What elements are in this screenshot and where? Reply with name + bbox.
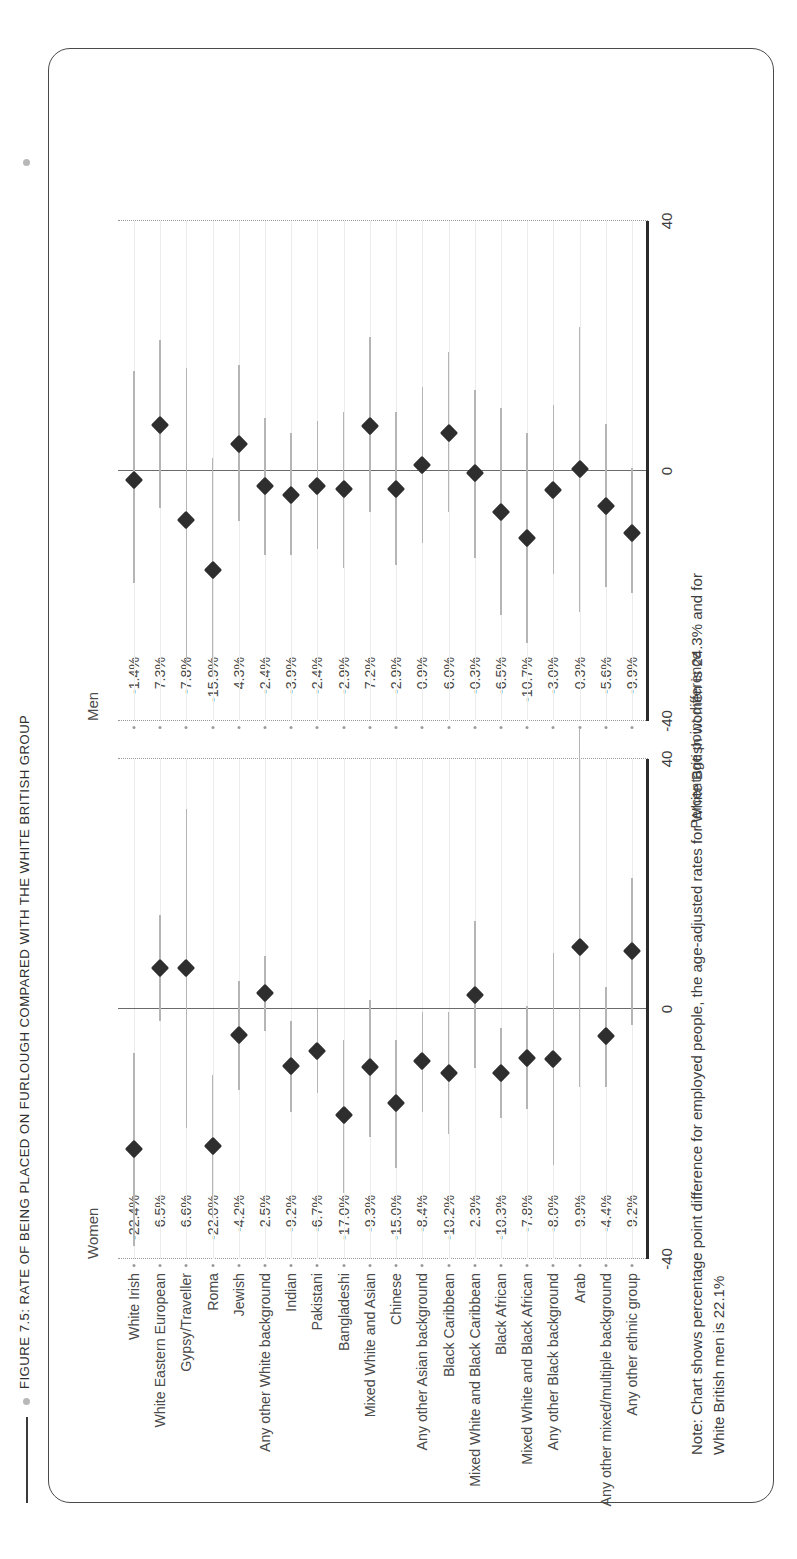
data-point-marker <box>308 477 326 495</box>
data-point-marker <box>230 1026 248 1044</box>
value-bullet-icon <box>368 1264 371 1267</box>
value-bullet-icon <box>133 1264 136 1267</box>
data-point-marker <box>282 486 300 504</box>
value-bullet-icon <box>395 1264 398 1267</box>
figure-note-line-1: Note: Chart shows percentage point diffe… <box>686 125 708 1455</box>
zero-reference-line <box>118 470 648 471</box>
category-label: White Irish <box>126 1273 142 1340</box>
value-bullet-icon <box>159 1264 162 1267</box>
category-label: Roma <box>205 1273 221 1311</box>
data-point-marker <box>597 497 615 515</box>
data-point-marker <box>151 416 169 434</box>
data-point-marker <box>570 460 588 478</box>
x-tick-label: 0 <box>658 467 675 475</box>
category-label: Jewish <box>231 1273 247 1316</box>
category-label: Any other White background <box>257 1273 273 1452</box>
figure-page: FIGURE 7.5: RATE OF BEING PLACED ON FURL… <box>0 0 797 1559</box>
data-point-marker <box>387 1094 405 1112</box>
data-point-marker <box>308 1042 326 1060</box>
category-label: Gypsy/Traveller <box>178 1273 194 1372</box>
panel-bound-min <box>118 1258 648 1259</box>
data-point-marker <box>518 1049 536 1067</box>
category-axis-labels: White IrishWhite Eastern EuropeanGypsy/T… <box>118 1273 648 1559</box>
category-label: Black African <box>493 1273 509 1355</box>
row-gridline <box>501 759 502 1259</box>
value-bullet-icon <box>526 1264 529 1267</box>
data-point-marker <box>544 1050 562 1068</box>
x-tick-label: 40 <box>658 213 675 230</box>
value-bullet-icon <box>316 1264 319 1267</box>
value-bullet-icon <box>578 1264 581 1267</box>
value-bullet-icon <box>631 1264 634 1267</box>
plot-area: Women -40040 Men -40040 Percentage point… <box>118 221 648 1259</box>
panel-men: Men -40040 <box>118 221 648 721</box>
panel-women: Women -40040 <box>118 759 648 1259</box>
data-point-marker <box>439 1064 457 1082</box>
data-point-marker <box>413 1052 431 1070</box>
data-point-marker <box>256 477 274 495</box>
value-bullet-icon <box>211 1264 214 1267</box>
category-label: Any other Asian background <box>414 1273 430 1450</box>
data-point-marker <box>256 984 274 1002</box>
x-tick-label: -40 <box>658 1248 675 1270</box>
row-gridline <box>291 759 292 1259</box>
row-gridline <box>449 759 450 1259</box>
category-label: Any other Black background <box>545 1273 561 1450</box>
value-bullet-icon <box>604 1264 607 1267</box>
data-point-marker <box>361 1058 379 1076</box>
value-bullet-icon <box>185 1264 188 1267</box>
panel-bound-min <box>118 720 648 721</box>
header-dot-right-icon <box>23 159 30 166</box>
data-point-marker <box>334 1106 352 1124</box>
value-bullet-icon <box>264 1264 267 1267</box>
data-point-marker <box>570 938 588 956</box>
category-label: Any other ethnic group <box>624 1273 640 1416</box>
value-bullet-icon <box>473 1264 476 1267</box>
data-point-marker <box>492 1064 510 1082</box>
x-tick-label: 40 <box>658 751 675 768</box>
data-point-marker <box>230 435 248 453</box>
panel-bound-max <box>118 758 648 759</box>
data-point-marker <box>151 959 169 977</box>
category-label: Bangladeshi <box>336 1273 352 1351</box>
zero-reference-line <box>118 1008 648 1009</box>
data-point-marker <box>203 1137 221 1155</box>
data-point-marker <box>623 942 641 960</box>
category-label: Mixed White and Black Caribbean <box>467 1273 483 1487</box>
data-point-marker <box>623 524 641 542</box>
category-label: Chinese <box>388 1273 404 1325</box>
panel-title-men: Men <box>84 692 101 721</box>
data-point-marker <box>177 511 195 529</box>
data-point-marker <box>203 561 221 579</box>
panel-bound-max <box>118 220 648 221</box>
category-label: Mixed White and Asian <box>362 1273 378 1417</box>
category-label: Pakistani <box>309 1273 325 1331</box>
category-label: Indian <box>283 1273 299 1312</box>
data-point-marker <box>466 985 484 1003</box>
value-bullet-icon <box>447 1264 450 1267</box>
data-point-marker <box>544 481 562 499</box>
data-point-marker <box>492 502 510 520</box>
confidence-interval-bar <box>579 728 581 1087</box>
header-rule <box>26 1417 28 1503</box>
figure-note: Note: Chart shows percentage point diffe… <box>686 125 730 1455</box>
figure-title: FIGURE 7.5: RATE OF BEING PLACED ON FURL… <box>17 715 32 1389</box>
row-gridline <box>422 759 423 1259</box>
value-bullet-icon <box>499 1264 502 1267</box>
data-point-marker <box>597 1027 615 1045</box>
data-point-marker <box>439 424 457 442</box>
category-label: White Eastern European <box>152 1273 168 1428</box>
figure-note-line-2: White British men is 22.1% <box>708 125 730 1455</box>
data-point-marker <box>334 480 352 498</box>
data-point-marker <box>125 1140 143 1158</box>
panel-axis-baseline <box>646 221 649 721</box>
category-label: Black Caribbean <box>441 1273 457 1377</box>
data-point-marker <box>413 456 431 474</box>
value-bullet-icon <box>237 1264 240 1267</box>
rotated-figure-wrapper: FIGURE 7.5: RATE OF BEING PLACED ON FURL… <box>0 0 797 1559</box>
category-label: Mixed White and Black African <box>519 1273 535 1465</box>
category-label: Any other mixed/multiple background <box>598 1273 614 1506</box>
category-label: Arab <box>572 1273 588 1303</box>
value-bullet-icon <box>290 1264 293 1267</box>
panel-axis-baseline <box>646 759 649 1259</box>
